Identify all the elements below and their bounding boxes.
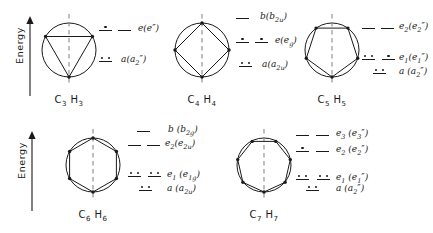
level-stack-c7h7: e3 (e3″) e2 (e2″)	[296, 129, 378, 203]
frost-unit-c5h5: C5 H5	[303, 12, 361, 92]
electron-dot	[130, 172, 132, 174]
electron-dot	[371, 55, 373, 57]
level-mark-occupied	[236, 42, 249, 43]
level-mark-empty	[362, 28, 375, 29]
electron-dot	[387, 55, 389, 57]
level-mark-paired	[317, 179, 330, 180]
electron-dot	[298, 175, 300, 177]
electron-dot	[157, 172, 159, 174]
electron-dot	[382, 69, 384, 71]
level-mark-paired	[99, 61, 112, 62]
diagram-row-bottom: Energy C6 H6	[0, 115, 433, 233]
level-term-label: b (b2g)	[168, 124, 198, 137]
electron-dot	[141, 186, 143, 188]
electron-dot	[308, 186, 310, 188]
frost-circle-c3h3	[40, 12, 98, 88]
level-term-label: e2(e2u)	[165, 138, 195, 151]
level-term-label: e2(e2″)	[399, 21, 428, 34]
level-mark-empty	[128, 145, 141, 146]
formula-label-c4h4: C4 H4	[170, 94, 234, 108]
electron-dot	[137, 172, 139, 174]
electron-dot	[108, 57, 110, 59]
electron-dot	[326, 175, 328, 177]
level-mark-occupied	[255, 42, 268, 43]
frost-circle-c6h6	[64, 127, 122, 203]
level-term-label: e2 (e2″)	[336, 144, 368, 157]
level-stack-c5h5: e2(e2″) e1(e1″)	[362, 22, 432, 84]
frost-circle-figure: Energy C3 H3	[0, 0, 433, 233]
level-mark-occupied	[296, 151, 309, 152]
level-mark-empty	[296, 135, 309, 136]
electron-dot	[150, 172, 152, 174]
level-mark-paired	[128, 176, 141, 177]
level-mark-paired	[306, 190, 319, 191]
frost-circle-c4h4	[173, 12, 231, 88]
level-term-label: a(a2″)	[121, 54, 146, 67]
level-term-label: a (a2u)	[167, 183, 196, 196]
energy-axis-label: Energy	[14, 15, 25, 77]
formula-label-c6h6: C6 H6	[61, 209, 125, 223]
formula-label-c3h3: C3 H3	[37, 94, 101, 108]
level-mark-empty	[381, 28, 394, 29]
electron-dot	[260, 38, 262, 40]
electron-dot	[101, 57, 103, 59]
level-mark-occupied	[382, 59, 395, 60]
electron-dot	[305, 175, 307, 177]
level-mark-empty	[137, 131, 150, 132]
level-term-label: a (a2″)	[399, 66, 427, 79]
level-term-label: e1 (e1g)	[167, 169, 200, 182]
electron-dot	[148, 186, 150, 188]
frost-circle-c7h7	[235, 127, 293, 203]
energy-arrow-icon	[24, 14, 36, 98]
frost-circle-c5h5	[303, 12, 361, 88]
electron-dot	[104, 26, 106, 28]
formula-label-c7h7: C7 H7	[232, 209, 296, 223]
frost-unit-c3h3: C3 H3	[40, 12, 98, 92]
electron-dot	[375, 69, 377, 71]
level-term-label: e(eg)	[275, 35, 297, 48]
level-mark-empty	[118, 30, 131, 31]
electron-dot	[241, 62, 243, 64]
level-mark-empty	[236, 18, 249, 19]
level-term-label: a (a2″)	[336, 183, 364, 196]
electron-dot	[315, 186, 317, 188]
level-term-label: e1(e1″)	[399, 52, 428, 65]
level-mark-paired	[296, 179, 309, 180]
level-mark-paired	[239, 66, 252, 67]
level-stack-c3h3: e(e″) a(a2″)	[99, 24, 161, 80]
level-mark-paired	[373, 73, 386, 74]
level-stack-c4h4: b(b2u) e(eg) a(a2u)	[236, 12, 302, 84]
level-mark-empty	[316, 151, 329, 152]
level-term-label: a(a2u)	[262, 59, 288, 72]
formula-label-c5h5: C5 H5	[300, 94, 364, 108]
electron-dot	[364, 55, 366, 57]
level-term-label: e3 (e3″)	[336, 128, 368, 141]
electron-dot	[301, 147, 303, 149]
level-stack-c6h6: b (b2g) e2(e2u)	[128, 125, 206, 203]
electron-dot	[319, 175, 321, 177]
level-mark-paired	[362, 59, 375, 60]
energy-axis-label: Energy	[16, 130, 27, 192]
level-mark-empty	[147, 145, 160, 146]
level-mark-paired	[148, 176, 161, 177]
energy-arrow-icon	[26, 129, 38, 213]
level-term-label: e(e″)	[138, 23, 159, 33]
energy-axis-bottom: Energy	[4, 129, 38, 213]
level-mark-empty	[316, 135, 329, 136]
level-term-label: b(b2u)	[260, 11, 287, 24]
frost-unit-c7h7: C7 H7	[235, 127, 293, 207]
electron-dot	[241, 38, 243, 40]
frost-unit-c6h6: C6 H6	[64, 127, 122, 207]
level-mark-paired	[139, 190, 152, 191]
electron-dot	[248, 62, 250, 64]
frost-unit-c4h4: C4 H4	[173, 12, 231, 92]
energy-axis-top: Energy	[2, 14, 36, 98]
level-mark-occupied	[99, 30, 112, 31]
diagram-row-top: Energy C3 H3	[0, 0, 433, 118]
